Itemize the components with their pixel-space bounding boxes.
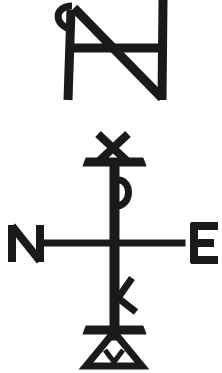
letter-e-icon bbox=[191, 223, 218, 263]
cross-monogram-icon bbox=[40, 134, 185, 366]
monogram-figure: N E bbox=[0, 0, 222, 373]
letter-n-icon bbox=[12, 225, 40, 262]
top-monogram-icon bbox=[58, 0, 163, 100]
monogram-drawing bbox=[0, 0, 222, 373]
